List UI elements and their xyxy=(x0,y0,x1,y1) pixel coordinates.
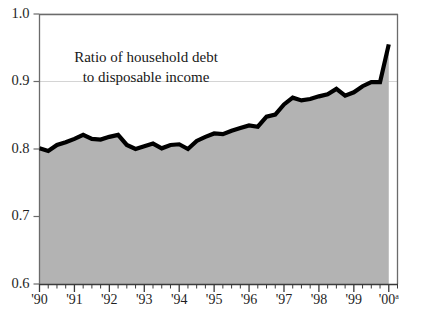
x-tick-label-superscript: a xyxy=(395,292,399,301)
x-tick-label-1: '91 xyxy=(66,292,83,307)
y-tick-label-3: 0.7 xyxy=(11,207,29,223)
chart-canvas: 1.00.90.80.70.6 '90'91'92'93'94'95'96'97… xyxy=(0,0,423,321)
y-tick-label-1: 0.9 xyxy=(11,72,29,88)
x-tick-label-0: '90 xyxy=(31,292,48,307)
x-tick-label-5: '95 xyxy=(206,292,223,307)
x-tick-label-4: '94 xyxy=(171,292,188,307)
chart-title-line-1: Ratio of household debt xyxy=(74,49,219,65)
y-tick-label-2: 0.8 xyxy=(11,140,29,156)
x-tick-label-6: '96 xyxy=(241,292,258,307)
x-tick-label-2: '92 xyxy=(101,292,118,307)
x-tick-label-8: '98 xyxy=(311,292,328,307)
x-tick-label-3: '93 xyxy=(136,292,153,307)
x-tick-label-9: '99 xyxy=(346,292,363,307)
x-tick-label-7: '97 xyxy=(276,292,293,307)
chart-title-line-2: to disposable income xyxy=(83,69,210,85)
y-tick-label-0: 1.0 xyxy=(11,5,29,21)
y-tick-label-4: 0.6 xyxy=(11,275,29,291)
chart-figure: 1.00.90.80.70.6 '90'91'92'93'94'95'96'97… xyxy=(0,0,423,321)
